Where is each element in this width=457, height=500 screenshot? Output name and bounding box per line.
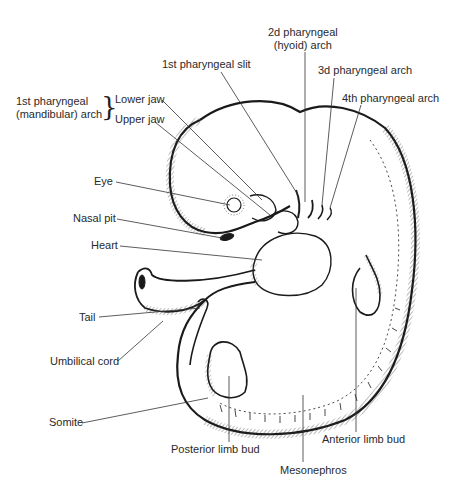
- label-second-arch-line2: (hyoid) arch: [268, 39, 338, 52]
- label-third-pharyngeal-arch: 3d pharyngeal arch: [318, 64, 412, 77]
- label-fourth-pharyngeal-arch: 4th pharyngeal arch: [342, 92, 439, 105]
- label-posterior-limb-bud: Posterior limb bud: [171, 443, 260, 456]
- label-second-arch-line1: 2d pharyngeal: [268, 26, 338, 39]
- label-anterior-limb-bud: Anterior limb bud: [322, 433, 405, 446]
- label-first-arch-line2: (mandibular) arch: [16, 108, 102, 121]
- label-umbilical-cord: Umbilical cord: [50, 355, 119, 368]
- label-first-arch-line1: 1st pharyngeal: [16, 95, 102, 108]
- label-somite: Somite: [49, 416, 83, 429]
- label-upper-jaw: Upper jaw: [115, 113, 165, 126]
- label-lower-jaw: Lower jaw: [115, 93, 165, 106]
- label-mesonephros: Mesonephros: [280, 464, 347, 477]
- label-first-pharyngeal-arch: 1st pharyngeal (mandibular) arch: [16, 95, 102, 121]
- label-heart: Heart: [91, 239, 118, 252]
- label-nasal-pit: Nasal pit: [73, 212, 116, 225]
- label-first-pharyngeal-slit: 1st pharyngeal slit: [162, 58, 251, 71]
- label-eye: Eye: [94, 175, 113, 188]
- embryo-body: [135, 101, 415, 434]
- label-tail: Tail: [79, 311, 96, 324]
- label-second-pharyngeal-arch: 2d pharyngeal (hyoid) arch: [268, 26, 338, 52]
